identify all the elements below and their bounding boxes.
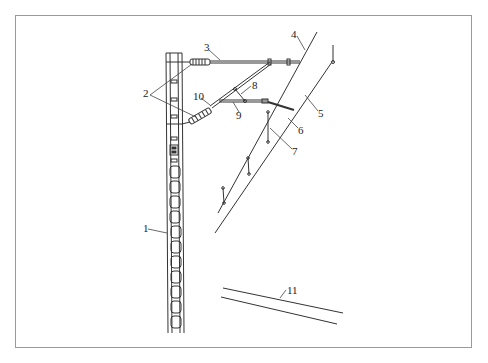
label-5: 5 [318,108,324,119]
label-1: 1 [143,223,149,234]
label-7: 7 [292,146,298,157]
label-3: 3 [204,42,210,53]
label-8: 8 [252,80,258,91]
catenary-diagram [0,0,488,363]
label-4: 4 [291,29,297,40]
brace-and-positioning-tube [219,88,268,103]
label-11: 11 [287,285,298,296]
label-9: 9 [236,110,242,121]
pole [166,53,184,333]
label-2: 2 [143,88,149,99]
label-6: 6 [298,125,304,136]
steady-arm [262,99,294,110]
horizontal-cantilever [182,59,300,65]
droppers [222,111,270,205]
leader-lines [148,36,318,298]
label-10: 10 [193,91,204,102]
contact-wire [215,62,332,233]
rails [221,288,343,324]
